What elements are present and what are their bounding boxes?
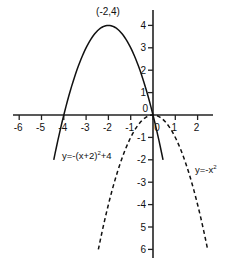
y-tick-label: -1 (137, 132, 146, 143)
y-tick-label: -3 (137, 177, 146, 188)
parabola-chart: -6-5-4-3-2-1012 43210-1-2-3-456 (-2,4) y… (0, 0, 228, 268)
curve1-label: y=-(x+2)2+4 (62, 150, 112, 161)
x-tick-label: -3 (81, 122, 90, 133)
y-tick-label: -4 (137, 199, 146, 210)
curve-shifted-parabola (54, 25, 163, 159)
y-tick-label: 4 (140, 20, 146, 31)
y-tick-label: 6 (140, 244, 146, 255)
x-tick-label: -2 (103, 122, 112, 133)
y-tick-label: 5 (140, 222, 146, 233)
y-tick-label: 0 (142, 103, 148, 114)
x-tick-label: -6 (14, 122, 23, 133)
vertex-label: (-2,4) (96, 6, 120, 17)
x-tick-label: -1 (125, 122, 134, 133)
y-tick-label: 3 (140, 42, 146, 53)
x-tick-label: -5 (36, 122, 45, 133)
y-tick-label: -2 (137, 154, 146, 165)
y-ticks: 43210-1-2-3-456 (137, 20, 153, 255)
curve2-label: y=-x2 (195, 164, 217, 175)
x-tick-label: 2 (194, 122, 200, 133)
